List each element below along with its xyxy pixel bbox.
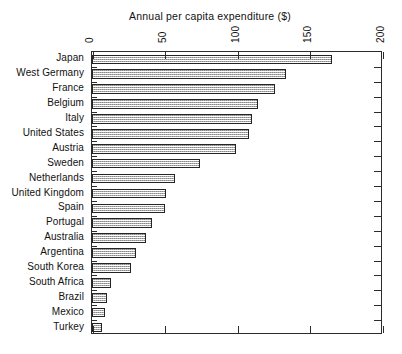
- y-axis-tick-left: [92, 231, 97, 232]
- y-axis-category-label: Netherlands: [29, 172, 84, 183]
- bar-row: [92, 246, 381, 261]
- y-axis-tick-left: [92, 305, 97, 306]
- y-axis-tick-left: [92, 275, 97, 276]
- bar: [92, 144, 236, 154]
- y-axis-tick-right: [374, 126, 381, 127]
- bar: [92, 323, 102, 333]
- x-axis-tick-bottom: [165, 326, 166, 333]
- bar-row: [92, 52, 381, 67]
- bar: [92, 99, 258, 109]
- bar: [92, 218, 152, 228]
- y-axis-category-label: Spain: [58, 201, 84, 212]
- y-axis-tick-left: [92, 320, 97, 321]
- x-axis-tick-top: [383, 52, 384, 59]
- x-axis-tick-bottom: [93, 326, 94, 333]
- x-axis-tick-label: 0: [84, 37, 95, 43]
- y-axis-category-label: United Kingdom: [11, 187, 84, 198]
- y-axis-category-labels: JapanWest GermanyFranceBelgiumItalyUnite…: [0, 51, 88, 334]
- bar: [92, 278, 111, 288]
- bar: [92, 69, 286, 79]
- y-axis-tick-right: [374, 216, 381, 217]
- bar-row: [92, 171, 381, 186]
- y-axis-tick-left: [92, 97, 97, 98]
- y-axis-tick-left: [92, 126, 97, 127]
- y-axis-category-label: Australia: [44, 231, 84, 242]
- plot-area: [91, 51, 382, 334]
- x-axis-tick-labels: 050100150200: [0, 0, 402, 51]
- y-axis-tick-right: [374, 305, 381, 306]
- x-axis-tick-top: [238, 52, 239, 59]
- y-axis-tick-left: [92, 290, 97, 291]
- bar: [92, 204, 165, 214]
- y-axis-tick-left: [92, 112, 97, 113]
- y-axis-category-label: Japan: [56, 52, 84, 63]
- y-axis-tick-right: [374, 275, 381, 276]
- x-axis-tick-label: 50: [157, 31, 168, 43]
- x-axis-tick-bottom: [238, 326, 239, 333]
- bar-row: [92, 305, 381, 320]
- y-axis-category-label: Belgium: [47, 97, 84, 108]
- y-axis-tick-right: [374, 156, 381, 157]
- bar: [92, 114, 252, 124]
- y-axis-tick-left: [92, 171, 97, 172]
- y-axis-tick-right: [374, 261, 381, 262]
- bar-series: [92, 52, 381, 333]
- bar: [92, 248, 136, 258]
- bar-row: [92, 67, 381, 82]
- bar: [92, 55, 332, 65]
- bar-row: [92, 126, 381, 141]
- bar-row: [92, 156, 381, 171]
- y-axis-tick-right: [374, 320, 381, 321]
- y-axis-tick-left: [92, 201, 97, 202]
- y-axis-category-label: Turkey: [53, 321, 84, 332]
- bar-row: [92, 275, 381, 290]
- y-axis-category-label: Sweden: [47, 157, 84, 168]
- bar: [92, 84, 275, 94]
- y-axis-tick-right: [374, 201, 381, 202]
- y-axis-category-label: Brazil: [58, 291, 84, 302]
- x-axis-tick-bottom: [310, 326, 311, 333]
- y-axis-tick-right: [374, 97, 381, 98]
- y-axis-category-label: United States: [23, 127, 84, 138]
- y-axis-tick-left: [92, 246, 97, 247]
- y-axis-tick-left: [92, 67, 97, 68]
- y-axis-category-label: Portugal: [46, 216, 84, 227]
- bar: [92, 189, 166, 199]
- bar-row: [92, 112, 381, 127]
- y-axis-tick-right: [374, 112, 381, 113]
- y-axis-tick-right: [374, 186, 381, 187]
- bar-row: [92, 186, 381, 201]
- y-axis-category-label: South Africa: [29, 276, 84, 287]
- y-axis-tick-right: [374, 246, 381, 247]
- bar: [92, 129, 249, 139]
- y-axis-tick-right: [374, 67, 381, 68]
- y-axis-tick-right: [374, 141, 381, 142]
- bar-row: [92, 97, 381, 112]
- bar-row: [92, 261, 381, 276]
- y-axis-category-label: West Germany: [16, 67, 84, 78]
- y-axis-category-label: Austria: [52, 142, 84, 153]
- bar: [92, 293, 107, 303]
- x-axis-tick-top: [165, 52, 166, 59]
- y-axis-tick-right: [374, 231, 381, 232]
- y-axis-category-label: South Korea: [27, 261, 84, 272]
- y-axis-category-label: Mexico: [52, 306, 84, 317]
- bar: [92, 308, 105, 318]
- y-axis-category-label: Argentina: [40, 246, 84, 257]
- y-axis-category-label: France: [52, 82, 84, 93]
- x-axis-tick-label: 100: [230, 26, 241, 43]
- y-axis-tick-left: [92, 216, 97, 217]
- y-axis-tick-left: [92, 82, 97, 83]
- x-axis-tick-top: [93, 52, 94, 59]
- bar-row: [92, 201, 381, 216]
- bar-row: [92, 231, 381, 246]
- bar-row: [92, 82, 381, 97]
- bar-row: [92, 216, 381, 231]
- bar-chart: Annual per capita expenditure ($) 050100…: [0, 0, 402, 354]
- bar-row: [92, 290, 381, 305]
- bar-row: [92, 320, 381, 335]
- bar-row: [92, 141, 381, 156]
- y-axis-tick-left: [92, 261, 97, 262]
- x-axis-tick-label: 200: [375, 26, 386, 43]
- bar: [92, 174, 175, 184]
